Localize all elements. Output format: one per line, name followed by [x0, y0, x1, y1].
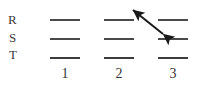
- level-line-c2-T: [104, 57, 134, 59]
- level-line-c1-R: [50, 19, 80, 21]
- column-label-1: 1: [50, 67, 80, 81]
- level-line-c1-S: [50, 38, 80, 40]
- level-line-c3-S: [158, 38, 188, 40]
- level-line-c3-T: [158, 57, 188, 59]
- row-label-T: T: [9, 48, 17, 61]
- row-label-S: S: [9, 31, 16, 44]
- energy-level-diagram: R S T 1 2 3: [0, 0, 204, 90]
- column-label-3: 3: [158, 67, 188, 81]
- column-label-2: 2: [104, 67, 134, 81]
- level-line-c2-R: [104, 19, 134, 21]
- row-label-R: R: [8, 13, 17, 26]
- transition-arrow-line: [133, 10, 163, 34]
- level-line-c2-S: [104, 38, 134, 40]
- level-line-c1-T: [50, 57, 80, 59]
- level-line-c3-R: [158, 19, 188, 21]
